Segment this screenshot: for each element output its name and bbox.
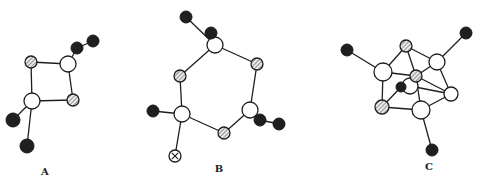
atom-black-c [341,44,353,56]
atom-black-b [273,118,285,130]
atom-hatched-a [67,94,79,106]
atom-black-c [396,82,406,92]
atom-black-b [254,114,266,126]
atom-white-b [207,37,223,53]
atom-black-c [426,144,438,156]
atom-black-b [147,105,159,117]
labels-layer: A B C [40,161,433,177]
atom-white-a [24,93,40,109]
atom-black-a [87,35,99,47]
atom-white-c [374,63,392,81]
atom-black-a [6,113,20,127]
atom-black-a [20,139,34,153]
atom-white-c [429,54,445,70]
atom-crossed-b [169,150,181,162]
structure-label-b: B [215,163,223,174]
atom-hatched-c [410,70,422,82]
atom-black-c [460,27,472,39]
atom-hatched-c [400,40,412,52]
figure-canvas: A B C [0,0,478,181]
atom-black-a [71,42,83,54]
atom-hatched-b [218,127,230,139]
atom-white-c [412,101,430,119]
atom-black-b [180,11,192,23]
atom-hatched-b [251,58,263,70]
atoms-layer [6,11,472,162]
molecular-structures-figure: A B C [0,0,478,181]
atom-hatched-b [174,70,186,82]
atom-hatched-a [25,56,37,68]
atom-white-b [174,106,190,122]
structure-label-a: A [40,166,49,177]
atom-hatched-c [375,100,389,114]
structure-label-c: C [425,161,433,172]
atom-white-c [444,87,458,101]
atom-black-b [205,27,217,39]
atom-white-a [60,56,76,72]
